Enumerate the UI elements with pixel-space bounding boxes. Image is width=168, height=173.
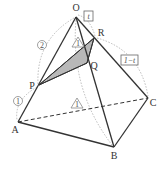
label-c: C [150,97,157,108]
marker-lower-text: 1 [75,100,79,109]
label-r: R [98,27,105,38]
edge-ob [76,17,114,147]
edge-bc [114,98,148,147]
arc-rc [97,38,148,96]
label-a: A [11,124,19,135]
marker-upper-text: 1 [76,39,80,48]
ratio-1: 1 [16,97,20,106]
label-o: O [72,2,79,13]
label-b: B [111,150,118,161]
ratio-2: 2 [40,41,44,50]
edge-ab [18,122,114,147]
label-p: P [29,80,35,91]
ratio-1-minus-t: 1−t [124,56,136,65]
tetrahedron-diagram: O R Q P A B C t 1−t 2 1 1 1 [0,0,168,173]
label-q: Q [90,60,98,71]
edge-ac-hidden [18,98,148,122]
